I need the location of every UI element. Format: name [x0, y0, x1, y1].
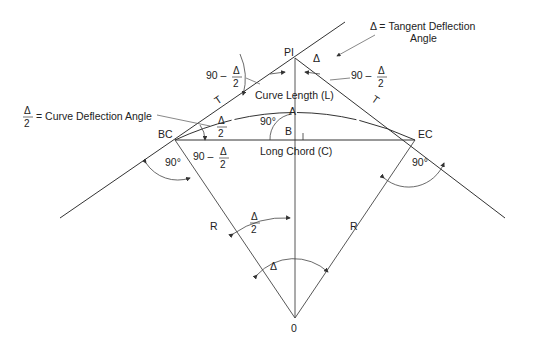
- fraction-center-half: Δ 2: [250, 211, 260, 235]
- long-chord-label: Long Chord (C): [260, 145, 332, 157]
- fraction-right-top: 90 – Δ 2: [351, 65, 387, 89]
- svg-text:90 –: 90 –: [351, 69, 372, 81]
- svg-text:Δ: Δ: [220, 146, 227, 157]
- svg-text:= Curve Deflection Angle: = Curve Deflection Angle: [36, 110, 152, 122]
- svg-text:Δ: Δ: [378, 65, 385, 76]
- svg-text:Δ: Δ: [24, 105, 31, 116]
- radius-left-label: R: [210, 220, 218, 232]
- right-angle-ec-label: 90°: [412, 156, 428, 168]
- tangent-deflection-leader: [337, 35, 375, 56]
- tangent-left-label: T: [212, 93, 225, 107]
- pi-label: PI: [284, 46, 294, 58]
- curve-length-label: Curve Length (L): [255, 89, 334, 101]
- svg-text:2: 2: [251, 224, 257, 235]
- fraction-bc-deflection: Δ 2: [217, 115, 227, 139]
- delta-pi-arc: [240, 54, 245, 95]
- svg-text:Δ: Δ: [218, 115, 225, 126]
- svg-text:Δ: Δ: [233, 65, 240, 76]
- delta-center-arc: [257, 259, 328, 275]
- right-ninety-leader: [330, 78, 350, 80]
- curve-diagram: PI BC EC 0 A B T T R R Curve Length (L) …: [0, 0, 547, 346]
- radius-left-line: [175, 140, 295, 318]
- svg-text:2: 2: [24, 118, 30, 129]
- delta-center-label: Δ: [270, 260, 277, 272]
- point-a-label: A: [289, 105, 296, 117]
- svg-text:2: 2: [233, 78, 239, 89]
- curve-deflection-arc: [200, 125, 205, 140]
- svg-text:90 –: 90 –: [193, 150, 214, 162]
- bc-label: BC: [158, 128, 173, 140]
- fraction-left-top: 90 – Δ 2: [206, 65, 242, 89]
- svg-text:2: 2: [218, 128, 224, 139]
- half-delta-center-arc: [233, 218, 290, 234]
- forward-tangent-line: [295, 58, 505, 218]
- right-angle-ab-label: 90°: [260, 115, 276, 127]
- svg-text:2: 2: [378, 78, 384, 89]
- center-label: 0: [291, 322, 297, 334]
- radius-right-label: R: [350, 220, 358, 232]
- svg-text:90 –: 90 –: [206, 69, 227, 81]
- point-b-label: B: [285, 125, 292, 137]
- delta-pi-label: Δ: [313, 52, 320, 64]
- left-ninety-leader: [246, 78, 260, 84]
- tangent-deflection-annotation-2: Angle: [410, 32, 437, 44]
- fraction-bc-bottom: 90 – Δ 2: [193, 146, 229, 170]
- right-angle-bc-label: 90°: [165, 156, 181, 168]
- tangent-deflection-annotation-1: Δ = Tangent Deflection: [370, 20, 476, 32]
- svg-text:2: 2: [220, 159, 226, 170]
- svg-text:Δ: Δ: [251, 211, 258, 222]
- curve-deflection-annotation: Δ 2 = Curve Deflection Angle: [23, 105, 152, 129]
- ec-label: EC: [418, 128, 433, 140]
- tangent-right-label: T: [370, 93, 383, 107]
